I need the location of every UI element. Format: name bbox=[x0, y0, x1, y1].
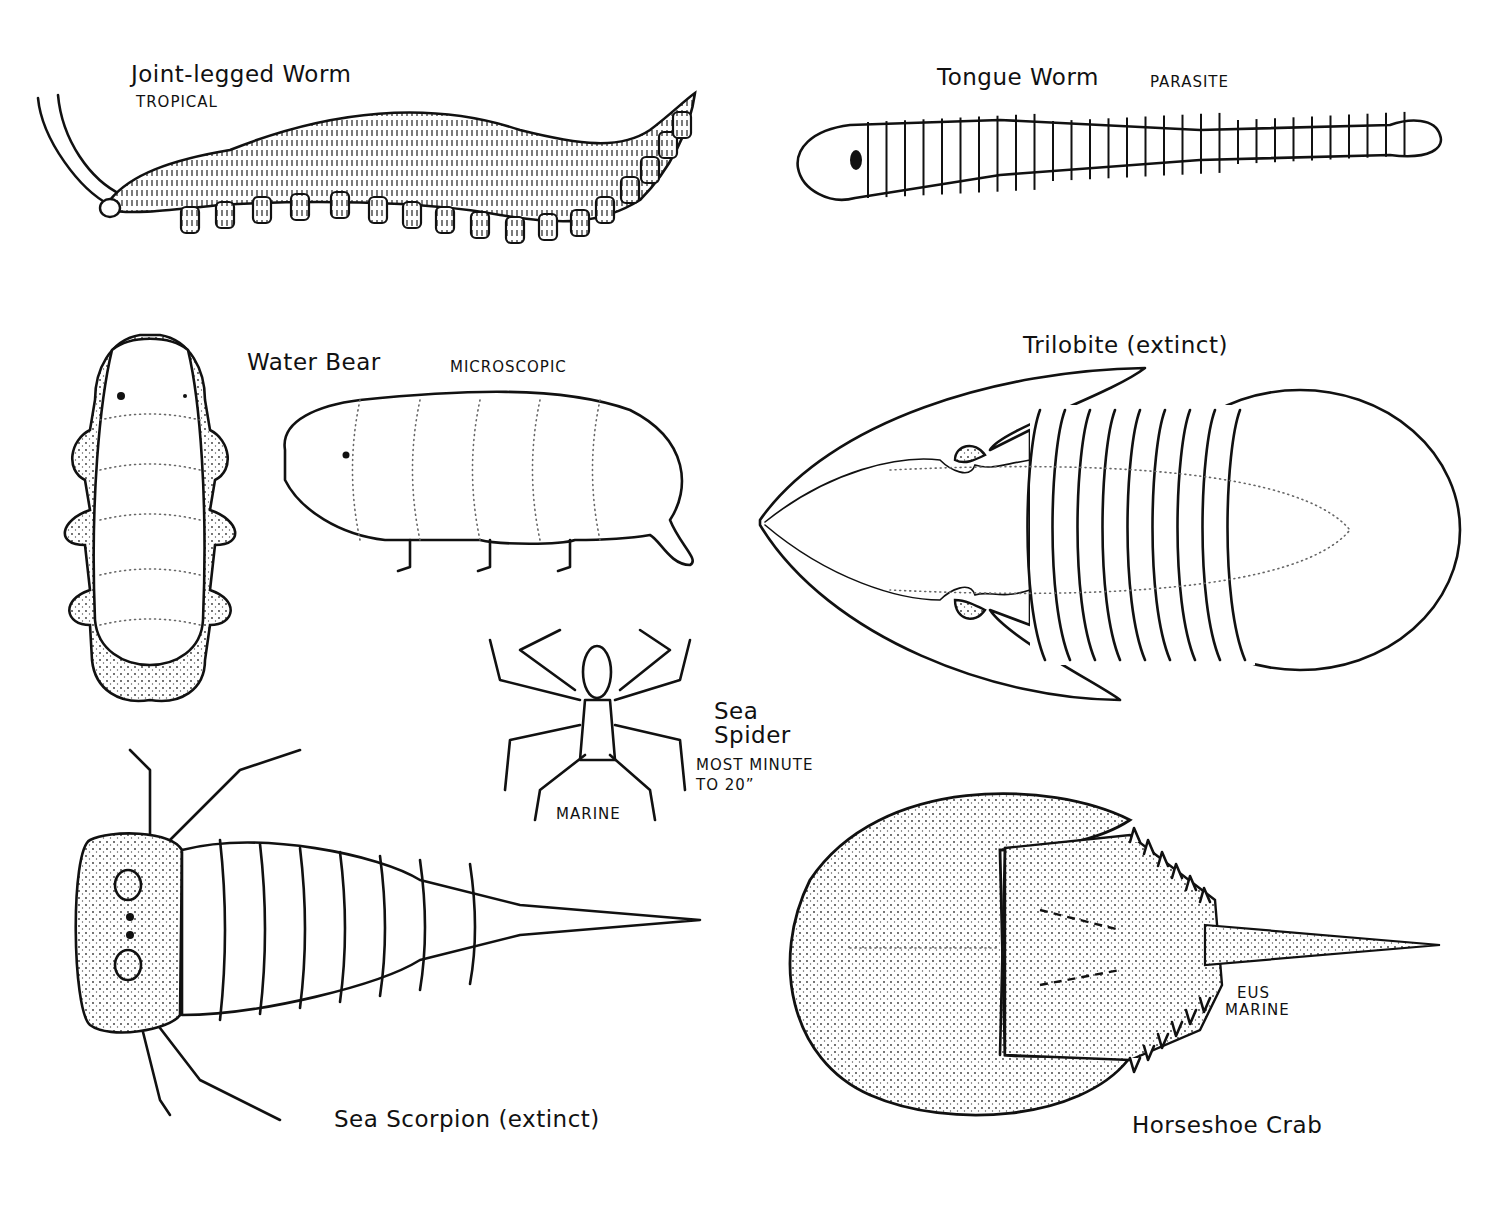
sea-spider-habitat: MARINE bbox=[556, 807, 621, 822]
worm-leg bbox=[571, 210, 589, 236]
horseshoe-crab-spine bbox=[1172, 864, 1182, 878]
worm-antenna bbox=[38, 98, 110, 205]
worm-leg bbox=[539, 214, 557, 240]
horseshoe-crab-telson bbox=[1205, 925, 1440, 965]
tongue-worm-note: PARASITE bbox=[1150, 75, 1229, 90]
sea-spider-leg bbox=[615, 725, 685, 790]
worm-leg bbox=[253, 197, 271, 223]
worm-leg bbox=[621, 177, 639, 203]
water-bear-side-leg bbox=[398, 540, 410, 571]
tongue-worm-drawing bbox=[798, 112, 1441, 200]
water-bear-top-drawing bbox=[65, 335, 235, 701]
horseshoe-crab-spine bbox=[1144, 840, 1154, 854]
worm-leg bbox=[673, 112, 691, 138]
sea-spider-leg bbox=[615, 640, 690, 700]
sea-spider-drawing bbox=[490, 630, 690, 820]
sea-scorpion-abdomen bbox=[182, 843, 700, 1015]
tongue-worm-body bbox=[798, 120, 1441, 200]
worm-head bbox=[100, 199, 120, 217]
joint-legged-worm-label: Joint-legged Worm bbox=[131, 63, 351, 86]
horseshoe-crab-spine bbox=[1144, 1046, 1154, 1060]
trilobite-drawing bbox=[760, 368, 1460, 700]
horseshoe-crab-drawing bbox=[790, 794, 1440, 1116]
worm-antenna bbox=[58, 95, 122, 195]
worm-leg bbox=[506, 217, 524, 243]
worm-leg bbox=[436, 207, 454, 233]
sea-scorpion-leg bbox=[130, 750, 150, 840]
water-bear-side-eye bbox=[343, 452, 350, 459]
worm-leg bbox=[331, 192, 349, 218]
trilobite-label: Trilobite (extinct) bbox=[1023, 334, 1228, 357]
sea-spider-leg bbox=[505, 725, 580, 790]
water-bear-side-drawing bbox=[285, 392, 693, 571]
sea-spider-note-line1: MOST MINUTE bbox=[696, 758, 813, 773]
tongue-worm-mouth bbox=[850, 150, 862, 170]
sea-spider-leg bbox=[490, 640, 580, 700]
sea-scorpion-label: Sea Scorpion (extinct) bbox=[334, 1108, 600, 1131]
sea-spider-leg bbox=[620, 630, 670, 690]
water-bear-side-body bbox=[285, 392, 693, 565]
sea-scorpion-ocellus bbox=[126, 913, 134, 921]
sea-spider-label-line1: Sea bbox=[714, 700, 758, 723]
worm-leg bbox=[471, 212, 489, 238]
sea-scorpion-leg bbox=[160, 750, 300, 850]
worm-leg bbox=[291, 194, 309, 220]
horseshoe-crab-note-line1: EUS bbox=[1237, 986, 1270, 1001]
sea-spider-leg bbox=[520, 630, 575, 690]
joint-legged-worm-drawing bbox=[38, 93, 695, 243]
horseshoe-crab-opisthosoma bbox=[1005, 835, 1222, 1060]
horseshoe-crab-spine bbox=[1130, 828, 1140, 842]
horseshoe-crab-note-line2: MARINE bbox=[1225, 1003, 1290, 1018]
sea-spider-proboscis bbox=[583, 646, 611, 698]
worm-leg bbox=[403, 202, 421, 228]
horseshoe-crab-spine bbox=[1130, 1058, 1140, 1072]
horseshoe-crab-label: Horseshoe Crab bbox=[1132, 1114, 1322, 1137]
water-bear-side-leg bbox=[558, 540, 570, 571]
sea-spider-body bbox=[580, 700, 615, 760]
horseshoe-crab-spine bbox=[1158, 852, 1168, 866]
sea-scorpion-ocellus bbox=[126, 931, 134, 939]
water-bear-label: Water Bear bbox=[247, 351, 381, 374]
illustration-plate bbox=[0, 0, 1511, 1211]
sea-scorpion-leg bbox=[150, 1015, 280, 1120]
joint-legged-worm-note: TROPICAL bbox=[136, 95, 218, 110]
worm-leg bbox=[596, 197, 614, 223]
water-bear-side-leg bbox=[478, 540, 490, 571]
water-bear-eye bbox=[117, 392, 125, 400]
sea-spider-label-line2: Spider bbox=[714, 724, 791, 747]
worm-leg bbox=[216, 202, 234, 228]
water-bear-note: MICROSCOPIC bbox=[450, 360, 567, 375]
water-bear-eye bbox=[183, 394, 187, 398]
worm-leg bbox=[181, 207, 199, 233]
water-bear-top-center bbox=[94, 339, 205, 665]
sea-spider-note-line2: TO 20” bbox=[696, 778, 755, 793]
worm-leg bbox=[641, 157, 659, 183]
worm-leg bbox=[369, 197, 387, 223]
tongue-worm-label: Tongue Worm bbox=[937, 66, 1099, 89]
